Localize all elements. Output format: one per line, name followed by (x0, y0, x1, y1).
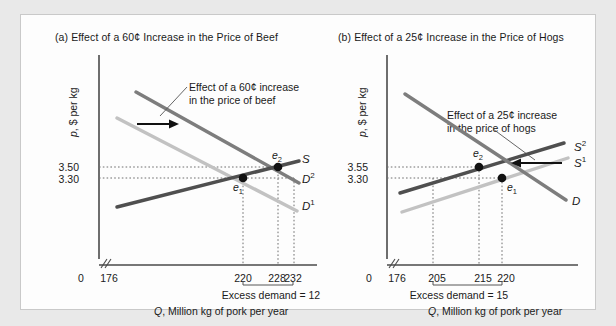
panel-b-hogs: (b) Effect of a 25¢ Increase in the Pric… (316, 15, 597, 311)
panel-a-beef: (a) Effect of a 60¢ Increase in the Pric… (21, 15, 321, 311)
panel-b-plot-svg (316, 15, 597, 311)
panel-b-equilibrium-point-e1 (498, 174, 507, 183)
panel-a-equilibrium-point-e1 (239, 174, 248, 183)
panel-b-shift-arrow-icon (511, 159, 562, 168)
panel-b-equilibrium-point-e2 (475, 163, 484, 172)
panel-b-excess-demand-bracket (433, 281, 502, 285)
panel-a-equilibrium-point-e2 (274, 163, 283, 172)
panel-a-curve-s (117, 161, 299, 207)
figure-frame: (a) Effect of a 60¢ Increase in the Pric… (20, 14, 596, 310)
panel-a-plot-svg (21, 15, 321, 311)
panel-a-excess-demand-bracket (243, 281, 293, 285)
panel-a-shift-arrow-icon (137, 120, 179, 129)
